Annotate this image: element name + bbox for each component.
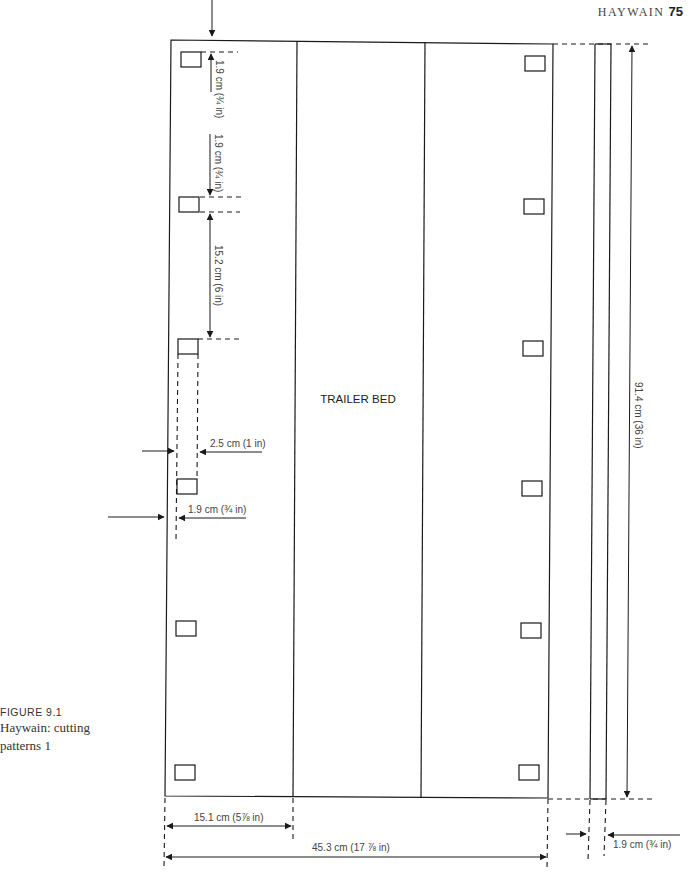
slot	[522, 481, 542, 496]
slots-left	[175, 52, 201, 780]
slot	[525, 56, 545, 71]
dim-label-panel-width: 15.1 cm (5⅞ in)	[194, 812, 263, 823]
part-label: TRAILER BED	[320, 393, 395, 405]
slot	[523, 341, 543, 356]
dim-label-slot-height: 1.9 cm (¾ in)	[213, 134, 224, 192]
slot	[175, 765, 195, 780]
slot	[181, 52, 201, 67]
dim-label-slot-width: 2.5 cm (1 in)	[210, 438, 266, 449]
dim-label-total-width: 45.3 cm (17 ⅞ in)	[312, 842, 390, 853]
slot	[178, 339, 198, 354]
dim-label-strip-width: 1.9 cm (¾ in)	[613, 839, 671, 850]
cutting-pattern-diagram: 1.9 cm (¾ in) 1.9 cm (¾ in) 15.2 cm (6 i…	[0, 0, 695, 876]
slot	[176, 621, 196, 636]
slot	[524, 199, 544, 214]
side-strip	[590, 44, 611, 799]
slot	[519, 765, 539, 780]
slot	[179, 197, 199, 212]
slot	[177, 479, 197, 494]
dim-label-slot-spacing: 15.2 cm (6 in)	[213, 245, 224, 306]
dim-label-slot-top-offset: 1.9 cm (¾ in)	[214, 60, 225, 118]
dim-label-slot-inset: 1.9 cm (¾ in)	[188, 504, 246, 515]
dim-label-total-length: 91.4 cm (36 in)	[633, 382, 644, 449]
slot	[521, 623, 541, 638]
slots-right	[519, 56, 545, 780]
dim-arrow	[627, 46, 632, 797]
